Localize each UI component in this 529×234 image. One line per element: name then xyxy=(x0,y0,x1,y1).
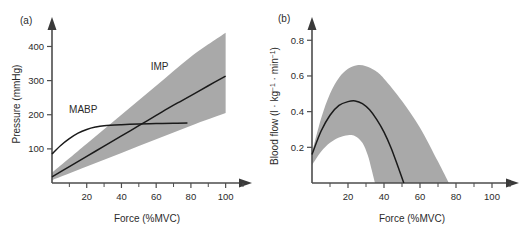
panel-b-y-axis-title: Blood flow (l · kg−1 · min−1) xyxy=(269,47,280,165)
svg-text:20: 20 xyxy=(81,191,92,202)
svg-text:100: 100 xyxy=(484,191,500,202)
panel-b-plot: 20406080100 0.20.40.60.8 Force (%MVC) Bl… xyxy=(262,0,529,234)
svg-text:80: 80 xyxy=(451,191,462,202)
svg-text:40: 40 xyxy=(379,191,390,202)
annotation-imp: IMP xyxy=(151,61,169,72)
svg-text:200: 200 xyxy=(28,109,44,120)
svg-text:0.6: 0.6 xyxy=(291,70,304,81)
panel-a-x-axis-title: Force (%MVC) xyxy=(114,213,180,224)
svg-text:60: 60 xyxy=(415,191,426,202)
svg-text:40: 40 xyxy=(116,191,127,202)
panel-b: 20406080100 0.20.40.60.8 Force (%MVC) Bl… xyxy=(262,0,529,234)
svg-text:60: 60 xyxy=(151,191,162,202)
svg-text:20: 20 xyxy=(343,191,354,202)
panel-b-x-axis-title: Force (%MVC) xyxy=(379,213,445,224)
panel-a-plot: 20406080100 100200300400 IMPMABP Force (… xyxy=(0,0,262,234)
annotation-mabp: MABP xyxy=(69,104,98,115)
panel-b-x-axis-arrowhead xyxy=(506,179,519,188)
svg-text:100: 100 xyxy=(28,143,44,154)
panel-b-y-axis-arrowhead xyxy=(308,17,317,30)
panel-a-y-axis-title: Pressure (mmHg) xyxy=(11,65,22,144)
imp-curve xyxy=(52,76,226,177)
panel-b-label: (b) xyxy=(278,13,290,24)
svg-text:300: 300 xyxy=(28,75,44,86)
svg-text:100: 100 xyxy=(218,191,234,202)
blood-flow-confidence-band xyxy=(312,65,449,183)
panel-b-x-tick-labels: 20406080100 xyxy=(343,191,500,202)
panel-b-y-tick-labels: 0.20.40.60.8 xyxy=(291,35,304,153)
svg-text:80: 80 xyxy=(186,191,197,202)
panel-a-y-axis-arrowhead xyxy=(48,17,57,30)
panel-a-x-tick-labels: 20406080100 xyxy=(81,191,233,202)
panel-a-x-axis-arrowhead xyxy=(239,179,252,188)
panel-a-y-tick-labels: 100200300400 xyxy=(28,41,44,154)
svg-text:0.2: 0.2 xyxy=(291,142,304,153)
panel-a-label: (a) xyxy=(20,15,32,26)
svg-text:400: 400 xyxy=(28,41,44,52)
figure-container: 20406080100 100200300400 IMPMABP Force (… xyxy=(0,0,529,234)
panel-a: 20406080100 100200300400 IMPMABP Force (… xyxy=(0,0,262,234)
svg-text:0.8: 0.8 xyxy=(291,35,304,46)
svg-text:0.4: 0.4 xyxy=(291,106,304,117)
